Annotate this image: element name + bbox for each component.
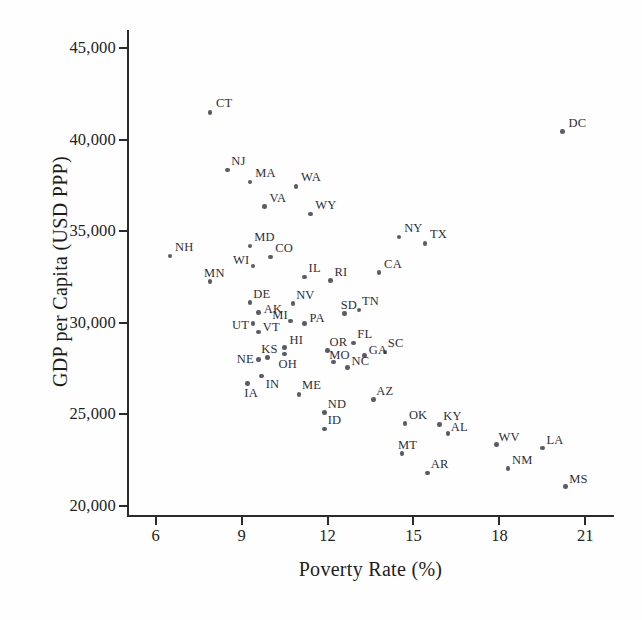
data-point <box>251 264 256 269</box>
data-point <box>345 365 350 370</box>
data-point <box>423 241 428 246</box>
data-point-label: ID <box>328 414 342 427</box>
data-point-label: HI <box>290 334 304 347</box>
data-point-label: PA <box>310 312 325 325</box>
data-point <box>248 300 253 305</box>
data-point <box>357 308 362 313</box>
data-point <box>251 321 256 326</box>
data-point <box>322 427 327 432</box>
data-point-label: DC <box>568 117 586 130</box>
data-point-label: ME <box>302 379 321 392</box>
data-point-label: WA <box>301 171 321 184</box>
data-point <box>245 381 250 386</box>
data-point <box>256 357 261 362</box>
data-point-label: GA <box>369 344 387 357</box>
data-point-label: UT <box>232 319 249 332</box>
data-point-label: DE <box>253 288 270 301</box>
data-point-label: MN <box>204 267 225 280</box>
data-point <box>400 451 405 456</box>
data-point-label: MA <box>255 167 276 180</box>
data-point <box>256 330 261 335</box>
data-point <box>506 466 511 471</box>
data-point-label: IL <box>309 262 321 275</box>
plot-area: CTDCNJMAWAVAWYNYTXMDNHCOWICAILRIMNDENVTN… <box>0 0 642 620</box>
data-point <box>262 204 267 209</box>
data-point-label: CT <box>216 97 232 110</box>
data-point <box>403 421 408 426</box>
data-point <box>268 255 273 260</box>
data-point-label: NJ <box>231 155 245 168</box>
data-point-label: NY <box>404 222 422 235</box>
data-point <box>437 422 442 427</box>
data-point-label: NE <box>237 353 254 366</box>
data-point <box>322 410 327 415</box>
data-point-label: TX <box>430 228 447 241</box>
data-point <box>288 319 293 324</box>
data-point-label: MS <box>569 473 587 486</box>
data-point-label: NV <box>296 289 314 302</box>
data-point-label: FL <box>357 328 372 341</box>
data-point <box>248 180 253 185</box>
data-point-label: NM <box>512 454 533 467</box>
data-point-label: OK <box>409 409 427 422</box>
data-point-label: AZ <box>376 385 393 398</box>
data-point-label: MO <box>329 349 350 362</box>
data-point <box>297 392 302 397</box>
data-point <box>168 254 173 259</box>
data-point-label: MD <box>254 231 275 244</box>
data-point <box>282 352 287 357</box>
data-point <box>294 184 299 189</box>
data-point <box>328 278 333 283</box>
data-point-label: CA <box>384 258 402 271</box>
data-point-label: KS <box>261 343 277 356</box>
data-point <box>540 446 545 451</box>
data-point-label: VT <box>263 321 280 334</box>
data-point-label: WY <box>315 199 336 212</box>
data-point-label: WI <box>233 254 249 267</box>
data-point-label: TN <box>362 295 379 308</box>
data-point-label: CO <box>275 242 293 255</box>
data-point-label: MT <box>398 439 417 452</box>
data-point <box>425 471 430 476</box>
data-point-label: VA <box>270 192 287 205</box>
data-point <box>282 345 287 350</box>
data-point <box>308 212 313 217</box>
data-point <box>377 270 382 275</box>
data-point <box>208 279 213 284</box>
data-point <box>248 244 253 249</box>
data-point <box>351 341 356 346</box>
data-point <box>291 301 296 306</box>
data-point-label: NH <box>175 241 193 254</box>
data-point <box>446 431 451 436</box>
data-point <box>302 321 307 326</box>
data-point-label: SD <box>341 299 357 312</box>
data-point <box>397 235 402 240</box>
data-point-label: IN <box>266 378 280 391</box>
data-point <box>256 310 261 315</box>
data-point <box>560 129 565 134</box>
scatter-chart: GDP per Capita (USD PPP) Poverty Rate (%… <box>0 0 642 620</box>
data-point-label: WV <box>499 431 520 444</box>
data-point-label: NC <box>352 355 370 368</box>
data-point <box>208 110 213 115</box>
data-point-label: AR <box>431 458 449 471</box>
data-point-label: LA <box>546 434 563 447</box>
data-point <box>342 311 347 316</box>
data-point <box>259 374 264 379</box>
data-point-label: OR <box>330 336 348 349</box>
data-point <box>225 168 230 173</box>
data-point <box>371 397 376 402</box>
data-point <box>302 275 307 280</box>
data-point <box>563 484 568 489</box>
data-point-label: OH <box>279 358 297 371</box>
data-point <box>265 355 270 360</box>
data-point-label: SC <box>388 337 404 350</box>
data-point-label: AL <box>451 421 468 434</box>
data-point-label: ND <box>328 398 346 411</box>
data-point-label: IA <box>244 387 258 400</box>
data-point-label: RI <box>334 266 347 279</box>
